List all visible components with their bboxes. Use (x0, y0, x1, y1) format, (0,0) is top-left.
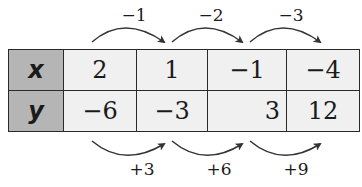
arrow-top-1 (92, 28, 164, 42)
top-arrow-label-2: −2 (198, 5, 223, 25)
row-header-x: x (9, 50, 64, 91)
cell-x-1: 2 (64, 50, 137, 91)
top-arrow-label-1: −1 (121, 5, 146, 25)
cell-x-2: 1 (137, 50, 208, 91)
arrow-top-2 (172, 28, 242, 42)
table-row-x: x 2 1 −1 −4 (9, 50, 360, 91)
cell-y-1: −6 (64, 91, 137, 132)
table-row-y: y −6 −3 3 12 (9, 91, 360, 132)
cell-x-4: −4 (287, 50, 360, 91)
cell-x-3: −1 (208, 50, 287, 91)
bottom-arrow-label-2: +6 (206, 159, 231, 179)
cell-y-3: 3 (208, 91, 287, 132)
row-header-y: y (9, 91, 64, 132)
top-arrow-label-3: −3 (278, 5, 303, 25)
arrow-top-3 (250, 28, 320, 42)
cell-y-2: −3 (137, 91, 208, 132)
arrow-bottom-1 (92, 141, 164, 155)
cell-y-4: 12 (287, 91, 360, 132)
function-table-diagram: −1 −2 −3 x 2 1 −1 −4 y −6 −3 3 12 +3 +6 … (0, 0, 362, 187)
xy-table: x 2 1 −1 −4 y −6 −3 3 12 (8, 49, 360, 132)
bottom-arrow-label-3: +9 (283, 159, 308, 179)
bottom-arrow-label-1: +3 (129, 159, 154, 179)
arrow-bottom-3 (250, 141, 320, 155)
arrow-bottom-2 (172, 141, 242, 155)
